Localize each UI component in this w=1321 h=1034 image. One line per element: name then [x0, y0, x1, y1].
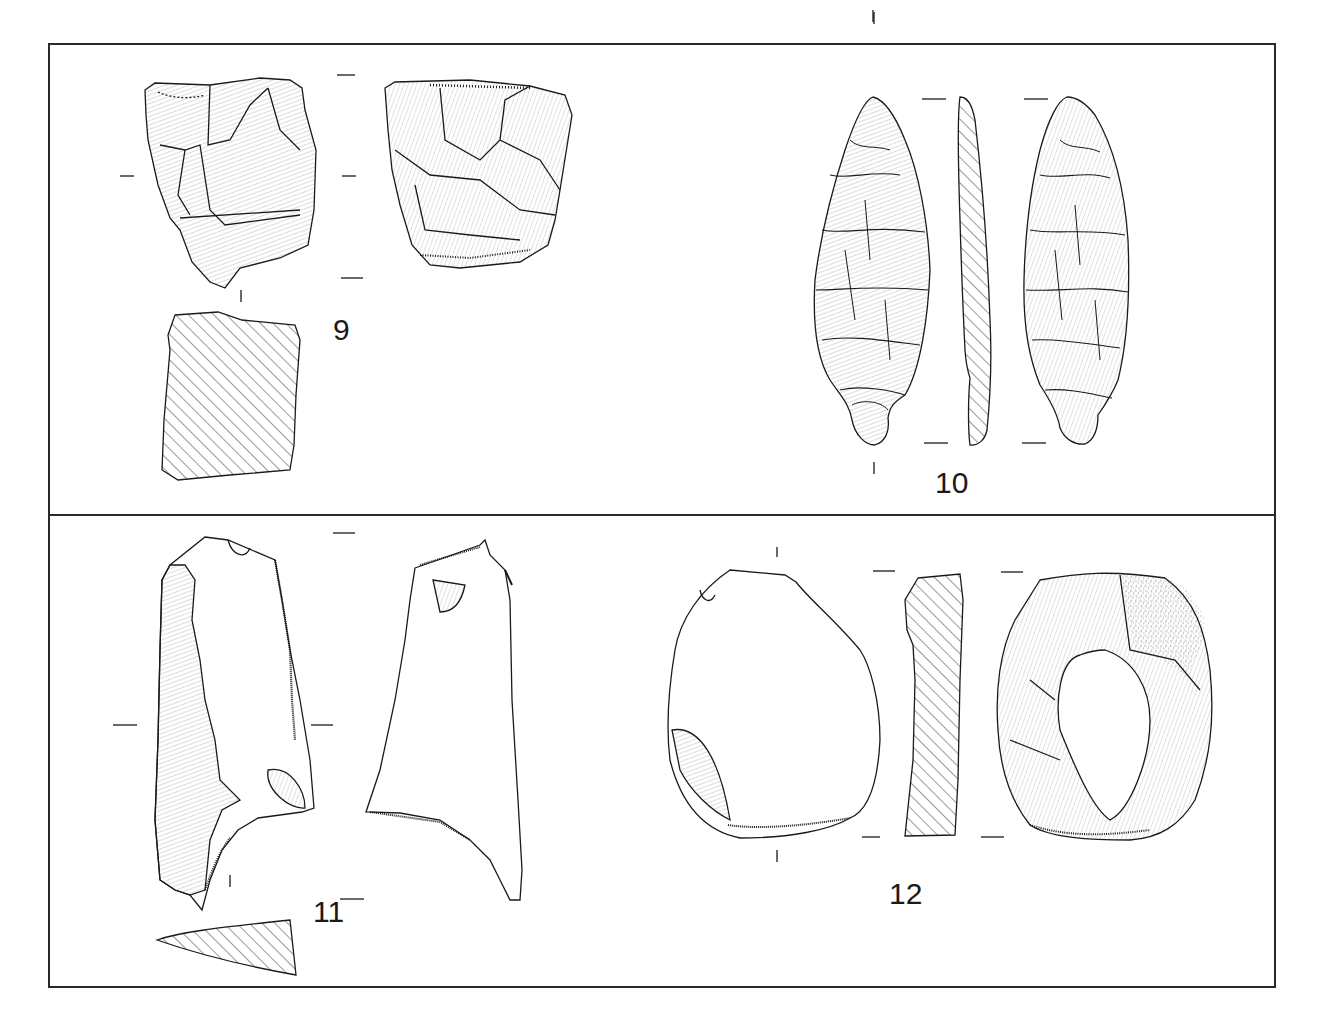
figure-11-face-a — [155, 537, 314, 910]
figure-12-section — [905, 574, 963, 836]
figure-11-section — [157, 920, 296, 975]
figure-9-section — [162, 312, 300, 480]
figure-12-face-b — [997, 573, 1212, 840]
artifact-drawings — [0, 0, 1321, 1034]
figure-label-11: 11 — [313, 895, 344, 929]
figure-10-face-b — [1024, 97, 1129, 444]
figure-9-face-b — [385, 80, 572, 268]
figure-11-face-b — [366, 540, 522, 900]
figure-9-face-a — [145, 78, 316, 288]
figure-10-profile-section — [959, 97, 991, 445]
figure-10-face-a — [814, 97, 930, 445]
figure-label-12: 12 — [889, 877, 922, 911]
figure-label-10: 10 — [935, 466, 968, 500]
figure-12-face-a — [668, 570, 880, 838]
figure-label-9: 9 — [333, 313, 350, 347]
